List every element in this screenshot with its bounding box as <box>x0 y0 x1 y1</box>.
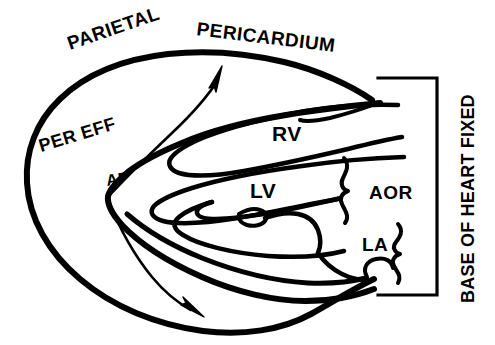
label-ap: AP <box>105 169 130 189</box>
diagram-canvas: PARIETAL PERICARDIUM PER EFF AP RV LV AO… <box>0 0 495 345</box>
atrium-brace <box>393 224 401 283</box>
label-parietal: PARIETAL <box>64 3 162 54</box>
swing-arrow-lower-head <box>181 297 204 317</box>
valve-chord-detail <box>265 213 320 253</box>
atrio-ventricular-junction <box>318 253 366 280</box>
pericardial-effusion-figure: PARIETAL PERICARDIUM PER EFF AP RV LV AO… <box>0 0 495 345</box>
parietal-pericardium-outline <box>27 52 374 332</box>
label-la: LA <box>362 234 388 255</box>
label-lv: LV <box>250 179 276 202</box>
pulmonary-vein-stump <box>365 258 393 277</box>
aorta-brace <box>341 158 348 223</box>
label-base-of-heart-fixed: BASE OF HEART FIXED <box>458 94 478 303</box>
label-per-eff: PER EFF <box>36 113 118 155</box>
label-aor: AOR <box>369 182 413 203</box>
label-rv: RV <box>272 122 302 145</box>
